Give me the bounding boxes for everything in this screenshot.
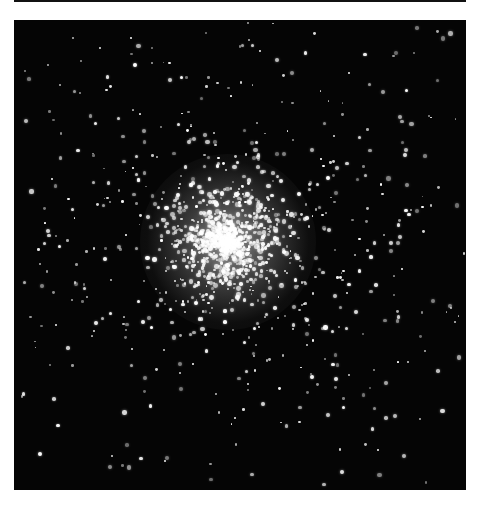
star: [55, 235, 57, 237]
star: [209, 478, 213, 482]
star: [323, 325, 327, 329]
star: [74, 281, 76, 283]
star: [249, 254, 252, 257]
star: [285, 424, 289, 428]
star: [233, 251, 237, 255]
star: [66, 346, 69, 349]
star: [405, 183, 409, 187]
star: [437, 186, 440, 189]
star: [318, 268, 321, 271]
star: [52, 119, 55, 122]
star: [145, 256, 150, 261]
star: [196, 273, 200, 277]
star: [205, 32, 207, 34]
star: [163, 62, 165, 64]
star: [340, 470, 344, 474]
star: [430, 117, 432, 119]
star: [398, 235, 402, 239]
star: [455, 203, 459, 207]
star: [327, 228, 331, 232]
star: [203, 275, 206, 278]
star: [258, 326, 260, 328]
star: [268, 286, 272, 290]
star: [316, 183, 319, 186]
star: [106, 197, 108, 199]
star: [299, 309, 301, 311]
star: [247, 383, 249, 385]
star: [377, 473, 381, 477]
star: [46, 270, 49, 273]
star: [194, 230, 196, 232]
star: [235, 295, 240, 300]
star: [71, 299, 73, 301]
star: [261, 242, 265, 246]
star: [247, 22, 249, 24]
star: [297, 192, 301, 196]
star: [272, 23, 274, 25]
star: [306, 391, 309, 394]
star: [135, 202, 138, 205]
star: [246, 280, 249, 283]
star: [389, 241, 393, 245]
star: [160, 239, 162, 241]
star: [384, 381, 388, 385]
star: [76, 149, 79, 152]
star: [237, 226, 240, 229]
star: [272, 208, 274, 210]
star: [220, 241, 222, 243]
star: [286, 210, 288, 212]
star: [105, 89, 108, 92]
star: [342, 102, 344, 104]
star: [396, 310, 399, 313]
star: [49, 364, 51, 366]
star: [214, 254, 218, 258]
star: [259, 223, 263, 227]
star: [236, 212, 241, 217]
star: [222, 333, 224, 335]
star: [191, 181, 195, 185]
star: [301, 304, 303, 306]
star: [223, 309, 226, 312]
star: [335, 166, 339, 170]
star: [133, 63, 137, 67]
star: [198, 201, 201, 204]
star: [192, 363, 194, 365]
star: [182, 283, 186, 287]
star: [186, 265, 190, 269]
star: [247, 269, 249, 271]
star: [315, 208, 318, 211]
star: [314, 276, 316, 278]
star: [123, 316, 125, 318]
star: [269, 269, 273, 273]
star: [137, 300, 140, 303]
star: [192, 137, 196, 141]
star: [237, 239, 240, 242]
star: [254, 369, 257, 372]
star: [261, 402, 265, 406]
star: [205, 349, 208, 352]
star: [383, 319, 387, 323]
star: [83, 283, 86, 286]
star: [397, 361, 399, 363]
star: [122, 410, 126, 414]
star: [223, 320, 227, 324]
star: [175, 300, 177, 302]
star: [190, 124, 192, 126]
star: [151, 154, 154, 157]
star: [304, 282, 308, 286]
star: [156, 223, 160, 227]
star: [104, 247, 107, 250]
star: [397, 315, 401, 319]
star: [182, 238, 185, 241]
star: [300, 213, 303, 216]
star: [381, 193, 384, 196]
star: [373, 241, 377, 245]
star: [252, 84, 254, 86]
star: [161, 218, 163, 220]
star: [181, 279, 184, 282]
star: [268, 217, 270, 219]
star: [125, 443, 129, 447]
star: [310, 375, 314, 379]
star: [267, 198, 270, 201]
star: [341, 279, 344, 282]
